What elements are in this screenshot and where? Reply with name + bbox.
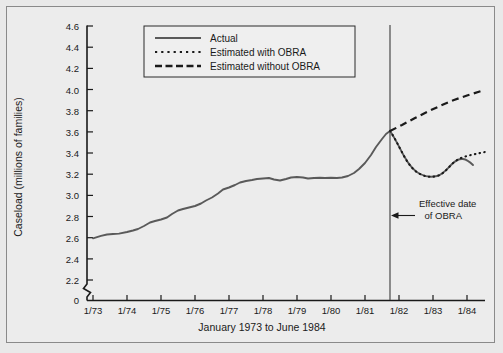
- series-estimated-with-obra-line: [390, 131, 485, 177]
- y-axis-ticks: [87, 26, 93, 280]
- y-axis: [84, 26, 94, 301]
- x-tick-label: 1/83: [424, 305, 443, 316]
- x-tick-label: 1/77: [220, 305, 239, 316]
- x-tick-label: 1/75: [152, 305, 171, 316]
- y-tick-label: 2.8: [66, 212, 79, 223]
- x-tick-label: 1/76: [186, 305, 205, 316]
- obra-annotation: Effective date of OBRA: [391, 198, 476, 221]
- y-tick-label: 3.4: [66, 148, 79, 159]
- x-axis-ticklabels: 1/73 1/74 1/75 1/76 1/77 1/78 1/79 1/80 …: [84, 305, 477, 316]
- y-tick-label: 3.8: [66, 106, 79, 117]
- series-actual-line: [93, 131, 390, 238]
- y-tick-label: 4.2: [66, 63, 79, 74]
- x-tick-label: 1/82: [390, 305, 409, 316]
- x-axis: 1/73 1/74 1/75 1/76 1/77 1/78 1/79 1/80 …: [84, 295, 485, 333]
- x-tick-label: 1/81: [356, 305, 375, 316]
- obra-annotation-line2: of OBRA: [425, 210, 463, 221]
- y-tick-label: 4.4: [66, 42, 79, 53]
- x-axis-ticks: [93, 295, 467, 301]
- x-tick-label: 1/78: [254, 305, 273, 316]
- chart-legend: Actual Estimated with OBRA Estimated wit…: [144, 26, 355, 77]
- series-actual-post-obra-line: [390, 131, 473, 177]
- x-tick-label: 1/84: [458, 305, 477, 316]
- y-tick-label: 3.0: [66, 190, 79, 201]
- y-tick-label: 2.4: [66, 254, 79, 265]
- series-estimated-without-obra-line: [390, 91, 483, 132]
- caseload-line-chart: Caseload (millions of families) 4.6 4.4 …: [7, 7, 494, 342]
- y-tick-label: 2.2: [66, 275, 79, 286]
- x-axis-title: January 1973 to June 1984: [198, 321, 325, 333]
- x-tick-label: 1/74: [118, 305, 137, 316]
- legend-label-actual: Actual: [210, 33, 238, 44]
- y-tick-label: 3.6: [66, 127, 79, 138]
- y-tick-label: 2.6: [66, 233, 79, 244]
- y-axis-title: Caseload (millions of families): [12, 97, 24, 236]
- y-tick-label: 4.6: [66, 21, 79, 32]
- x-tick-label: 1/80: [322, 305, 341, 316]
- legend-label-estimated-without-obra: Estimated without OBRA: [210, 61, 320, 72]
- figure-container: Caseload (millions of families) 4.6 4.4 …: [0, 0, 503, 353]
- y-tick-label: 4.0: [66, 85, 79, 96]
- legend-label-estimated-with-obra: Estimated with OBRA: [210, 47, 306, 58]
- x-tick-label: 1/73: [84, 305, 103, 316]
- y-tick-label: 3.2: [66, 169, 79, 180]
- y-axis-ticklabels: 4.6 4.4 4.2 4.0 3.8 3.6 3.4 3.2 3.0 2.8 …: [66, 21, 79, 306]
- chart-frame: Caseload (millions of families) 4.6 4.4 …: [6, 6, 495, 343]
- obra-annotation-arrowhead: [391, 212, 399, 219]
- obra-annotation-line1: Effective date: [419, 198, 476, 209]
- y-origin-label: 0: [74, 295, 79, 306]
- x-tick-label: 1/79: [288, 305, 307, 316]
